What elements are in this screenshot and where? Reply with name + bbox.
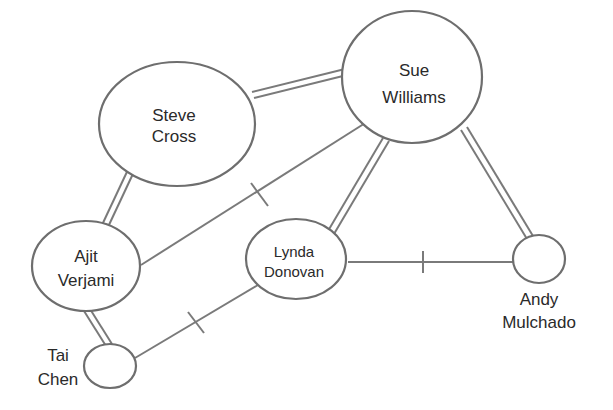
edge-tai-lynda bbox=[135, 285, 258, 358]
node-label: Donovan bbox=[264, 263, 324, 280]
edge-sue-andy bbox=[461, 127, 533, 239]
node-label: Sue bbox=[399, 61, 429, 80]
node-label: Lynda bbox=[274, 243, 315, 260]
node-steve-cross[interactable]: Steve Cross bbox=[99, 62, 255, 186]
node-label: Verjami bbox=[58, 271, 115, 290]
edge-ajit-tai bbox=[84, 309, 112, 346]
network-diagram: Steve Cross Sue Williams Ajit Verjami Ly… bbox=[0, 0, 613, 410]
node-sue-williams[interactable]: Sue Williams bbox=[342, 11, 482, 143]
node-label: Williams bbox=[382, 88, 445, 107]
edge-steve-sue bbox=[252, 68, 351, 98]
node-label: Chen bbox=[38, 370, 79, 389]
edge-lynda-andy bbox=[348, 251, 513, 273]
node-label: Steve bbox=[152, 106, 195, 125]
edge-sue-lynda bbox=[325, 138, 389, 239]
node-label: Mulchado bbox=[502, 313, 576, 332]
node-label: Tai bbox=[47, 346, 69, 365]
node-lynda-donovan[interactable]: Lynda Donovan bbox=[246, 219, 346, 299]
node-tai-chen[interactable]: Tai Chen bbox=[38, 344, 136, 389]
node-label: Ajit bbox=[74, 247, 98, 266]
node-label: Cross bbox=[152, 127, 196, 146]
node-andy-mulchado[interactable]: Andy Mulchado bbox=[502, 235, 576, 332]
node-label: Andy bbox=[520, 290, 559, 309]
node-ajit-verjami[interactable]: Ajit Verjami bbox=[32, 221, 140, 311]
